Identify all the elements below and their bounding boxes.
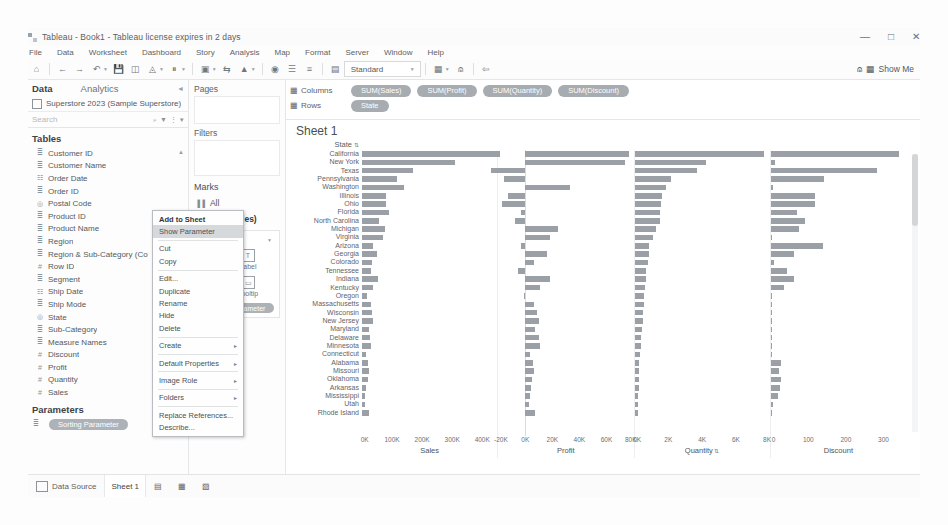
bar-mark[interactable] [362,168,413,174]
field-customer-name[interactable]: ≣Customer Name [30,160,188,173]
group-members-icon[interactable]: ☰ [285,62,300,77]
data-pane-collapse-icon[interactable]: ◄ [177,85,184,92]
ctx-copy[interactable]: Copy [153,255,243,267]
pages-shelf[interactable] [194,96,280,124]
menu-item-server[interactable]: Server [344,48,370,57]
bar-mark[interactable] [635,193,662,199]
bar-mark[interactable] [771,243,823,249]
bar-mark[interactable] [362,410,369,416]
row-header-cell[interactable]: Arizona [286,242,362,250]
show-me-button[interactable]: ⍝ ▦ Show Me [857,64,920,75]
bar-mark[interactable] [362,285,373,291]
bar-mark[interactable] [635,368,640,374]
undo-icon[interactable]: ↶ [89,62,104,77]
bar-mark[interactable] [771,260,774,266]
bar-mark[interactable] [635,176,671,182]
filter-icon[interactable]: ▼ [160,116,167,123]
bar-mark[interactable] [771,327,772,333]
row-header-cell[interactable]: Massachusetts [286,300,362,308]
parameter-pill-label[interactable]: Sorting Parameter [49,419,128,430]
bar-mark[interactable] [635,285,646,291]
ctx-hide[interactable]: Hide [153,310,243,322]
row-header-cell[interactable]: Wisconsin [286,309,362,317]
more-options-icon[interactable]: ▾ [180,116,184,124]
swap-axes-icon[interactable]: ⇆ [220,62,235,77]
bar-mark[interactable] [525,285,540,291]
bar-mark[interactable] [771,276,794,282]
ctx-rename[interactable]: Rename [153,297,243,309]
row-header-cell[interactable]: California [286,150,362,158]
menu-item-data[interactable]: Data [56,48,75,57]
sheet-tab-sheet1[interactable]: Sheet 1 [104,475,146,497]
bar-mark[interactable] [635,235,654,241]
bar-mark[interactable] [362,176,397,182]
bar-mark[interactable] [635,268,647,274]
row-header-cell[interactable]: Washington [286,183,362,191]
maximize-button[interactable]: □ [888,32,894,42]
row-header-cell[interactable]: Michigan [286,225,362,233]
bar-mark[interactable] [502,201,525,207]
forward-icon[interactable]: → [72,62,87,77]
bar-mark[interactable] [362,327,369,333]
bar-mark[interactable] [362,218,379,224]
scrollbar-thumb[interactable] [912,154,918,226]
menu-item-dashboard[interactable]: Dashboard [141,48,182,57]
bar-mark[interactable] [771,318,772,324]
field-order-date[interactable]: ☷Order Date [30,172,188,185]
bar-mark[interactable] [635,335,642,341]
axis-title-sales[interactable]: Sales [362,446,497,455]
menu-item-file[interactable]: File [28,48,43,57]
bar-mark[interactable] [771,310,772,316]
ctx-delete[interactable]: Delete [153,322,243,334]
row-header-cell[interactable]: Georgia [286,250,362,258]
bar-mark[interactable] [362,310,372,316]
bar-mark[interactable] [362,235,383,241]
row-header-cell[interactable]: Minnesota [286,342,362,350]
bar-mark[interactable] [635,393,639,399]
datasource-chevron-down-icon[interactable]: ▼ [159,66,164,72]
bar-mark[interactable] [525,235,550,241]
row-header-cell[interactable]: Oklahoma [286,375,362,383]
pill-state[interactable]: State [351,100,389,112]
row-header-cell[interactable]: North Carolina [286,217,362,225]
mark-type-chevron-down-icon[interactable]: ▼ [267,237,272,243]
sort-ascending-icon[interactable]: ▲ [237,62,252,77]
datasource-tab[interactable]: Data Source [28,475,104,497]
bar-mark[interactable] [635,151,765,157]
undo-chevron-down-icon[interactable]: ▼ [103,66,108,72]
bar-mark[interactable] [635,352,640,358]
row-header-cell[interactable]: Delaware [286,334,362,342]
ctx-create[interactable]: Create▸ [153,340,243,352]
bar-mark[interactable] [504,176,525,182]
bar-mark[interactable] [362,151,500,157]
row-header-cell[interactable]: Kentucky [286,284,362,292]
sort-indicator-icon[interactable]: ⇅ [354,142,359,148]
bar-mark[interactable] [771,251,794,257]
bar-mark[interactable] [635,343,642,349]
clear-sheet-icon[interactable]: ▣ [198,62,213,77]
bar-mark[interactable] [525,251,547,257]
bar-mark[interactable] [362,276,378,282]
bar-mark[interactable] [635,226,657,232]
bar-mark[interactable] [525,377,532,383]
bar-mark[interactable] [771,218,806,224]
row-header-cell[interactable]: Pennsylvania [286,175,362,183]
bar-mark[interactable] [771,402,774,408]
bar-mark[interactable] [635,327,642,333]
bar-mark[interactable] [771,226,799,232]
bar-mark[interactable] [635,168,698,174]
show-cards-icon[interactable]: ⍝ [453,62,468,77]
bar-mark[interactable] [635,201,661,207]
save-icon[interactable]: 💾 [111,62,126,77]
bar-mark[interactable] [362,185,404,191]
bar-mark[interactable] [635,377,640,383]
ctx-image-role[interactable]: Image Role▸ [153,374,243,386]
bar-mark[interactable] [635,310,644,316]
bar-mark[interactable] [771,335,772,341]
bar-mark[interactable] [525,185,570,191]
bar-mark[interactable] [362,293,367,299]
bar-mark[interactable] [525,368,534,374]
field-order-id[interactable]: ≣Order ID [30,185,188,198]
ctx-edit[interactable]: Edit... [153,273,243,285]
row-header-cell[interactable]: Rhode Island [286,409,362,417]
